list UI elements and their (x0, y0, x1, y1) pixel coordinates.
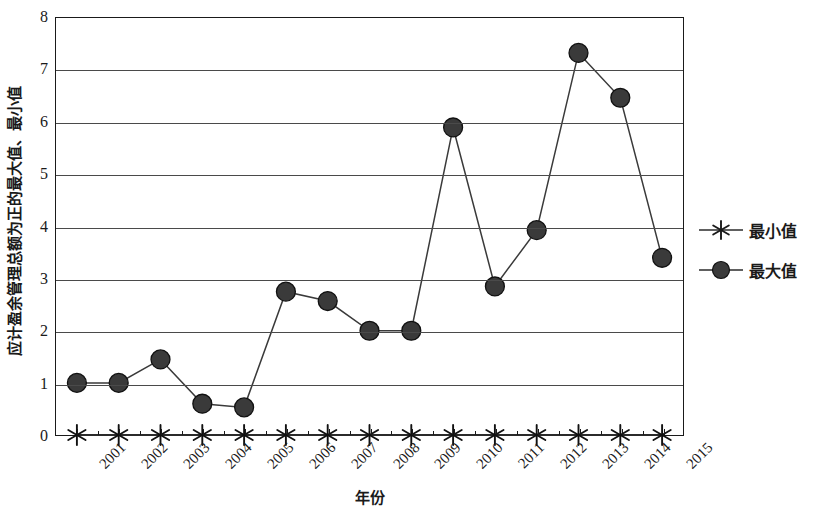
x-tick-mark-minor (98, 431, 99, 435)
data-point-marker (611, 88, 630, 107)
x-tick-mark (77, 429, 78, 435)
x-tick-mark-minor (182, 431, 183, 435)
x-tick-mark-minor (266, 431, 267, 435)
x-tick-mark (287, 429, 288, 435)
x-tick-mark (412, 429, 413, 435)
x-tick-mark-minor (224, 431, 225, 435)
y-tick-label: 4 (40, 219, 48, 235)
data-point-marker (109, 373, 128, 392)
x-tick-label: 2001 (97, 440, 129, 472)
gridline (56, 332, 683, 333)
x-tick-label: 2011 (516, 440, 547, 471)
x-tick-mark-minor (601, 431, 602, 435)
x-axis-tick-labels: 2001200220032004200520062007200820092010… (55, 440, 684, 488)
x-tick-mark (245, 429, 246, 435)
gridline (56, 385, 683, 386)
y-tick-label: 8 (40, 9, 48, 25)
x-tick-mark (161, 429, 162, 435)
x-tick-mark-minor (308, 431, 309, 435)
x-tick-label: 2009 (432, 440, 464, 472)
x-tick-mark-minor (433, 431, 434, 435)
asterisk-marker-icon (697, 218, 745, 242)
data-point-marker (151, 350, 170, 369)
data-point-marker (527, 221, 546, 240)
x-tick-label: 2010 (474, 440, 506, 472)
x-tick-mark (496, 429, 497, 435)
x-tick-label: 2006 (306, 440, 338, 472)
y-tick-label: 5 (40, 166, 48, 182)
chart-legend: 最小值 最大值 (697, 210, 827, 290)
y-axis-tick-labels: 012345678 (28, 0, 52, 440)
x-tick-label: 2008 (390, 440, 422, 472)
x-tick-mark (454, 429, 455, 435)
y-tick-label: 2 (40, 323, 48, 339)
gridline (56, 280, 683, 281)
x-tick-mark (119, 429, 120, 435)
x-axis-title: 年份 (55, 486, 684, 507)
data-point-marker (67, 373, 86, 392)
y-tick-label: 1 (40, 376, 48, 392)
y-tick-label: 7 (40, 61, 48, 77)
x-tick-label: 2004 (223, 440, 255, 472)
y-axis-title: 应计盈余管理总额为正的最大值、最小值 (0, 0, 26, 440)
x-tick-mark-minor (350, 431, 351, 435)
gridline (56, 123, 683, 124)
x-tick-label: 2012 (558, 440, 590, 472)
data-point-marker (444, 118, 463, 137)
x-tick-label: 2003 (181, 440, 213, 472)
x-tick-mark (203, 429, 204, 435)
x-tick-mark-minor (559, 431, 560, 435)
plot-area (55, 17, 684, 436)
data-series-layer (56, 18, 683, 435)
chart-figure: 应计盈余管理总额为正的最大值、最小值 012345678 20012002200… (0, 0, 830, 517)
x-tick-mark-minor (475, 431, 476, 435)
gridline (56, 228, 683, 229)
x-tick-mark (538, 429, 539, 435)
x-tick-mark-minor (140, 431, 141, 435)
data-point-marker (318, 292, 337, 311)
x-tick-mark (371, 429, 372, 435)
x-tick-label: 2013 (600, 440, 632, 472)
legend-item-min: 最小值 (697, 210, 827, 250)
y-tick-label: 6 (40, 114, 48, 130)
data-point-marker (569, 43, 588, 62)
x-tick-mark (580, 429, 581, 435)
x-tick-mark-minor (517, 431, 518, 435)
y-tick-label: 0 (40, 428, 48, 444)
data-point-marker (402, 321, 421, 340)
x-tick-mark-minor (643, 431, 644, 435)
x-tick-label: 2015 (684, 440, 716, 472)
y-axis-title-text: 应计盈余管理总额为正的最大值、最小值 (3, 85, 24, 355)
x-tick-label: 2014 (642, 440, 674, 472)
data-point-marker (193, 394, 212, 413)
data-point-marker (276, 282, 295, 301)
legend-label-max: 最大值 (749, 258, 797, 282)
x-tick-label: 2005 (264, 440, 296, 472)
x-tick-mark-minor (391, 431, 392, 435)
y-tick-label: 3 (40, 271, 48, 287)
circle-marker-icon (697, 258, 745, 282)
data-point-marker (235, 398, 254, 417)
data-point-marker (360, 321, 379, 340)
series-max (67, 43, 671, 416)
x-tick-mark (664, 429, 665, 435)
x-tick-mark (329, 429, 330, 435)
legend-label-min: 最小值 (749, 218, 797, 242)
gridline (56, 175, 683, 176)
x-tick-mark (622, 429, 623, 435)
x-tick-label: 2002 (139, 440, 171, 472)
gridline (56, 70, 683, 71)
data-point-marker (653, 248, 672, 267)
x-tick-label: 2007 (348, 440, 380, 472)
legend-item-max: 最大值 (697, 250, 827, 290)
